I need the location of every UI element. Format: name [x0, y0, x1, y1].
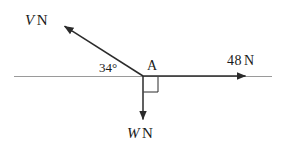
force-label-v: VN: [25, 13, 48, 28]
force-label-48n-value: 48: [227, 53, 242, 68]
force-label-w: WN: [127, 126, 153, 141]
force-label-48n: 48N: [227, 54, 254, 68]
force-label-48n-unit: N: [244, 53, 254, 68]
force-label-w-unit: N: [142, 125, 153, 141]
force-label-v-unit: N: [37, 12, 48, 28]
force-label-w-symbol: W: [127, 125, 140, 141]
vertex-label-a: A: [147, 59, 157, 73]
right-angle-marker: [144, 77, 159, 92]
force-label-v-symbol: V: [25, 12, 35, 28]
force-diagram-figure: VN 34° A 48N WN: [0, 0, 287, 151]
angle-label-34: 34°: [99, 61, 117, 74]
